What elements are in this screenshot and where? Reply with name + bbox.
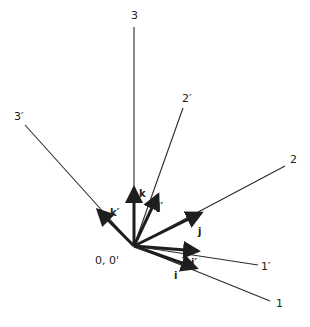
vec-ip-label: i′ xyxy=(191,257,197,268)
axes-layer xyxy=(25,27,285,301)
axis-3p-label: 3′ xyxy=(14,110,24,123)
diagram-canvas: 33′2′21′1kk′j′ji′i 0, 0' xyxy=(0,0,310,327)
axis-2p-label: 2′ xyxy=(182,92,192,105)
axis-1p-label: 1′ xyxy=(261,260,271,273)
axis-3-label: 3 xyxy=(131,9,138,22)
vec-i-label: i xyxy=(174,270,177,281)
origin-label: 0, 0' xyxy=(95,254,119,267)
vec-k-label: k xyxy=(139,188,146,199)
coordinate-frames-diagram: 33′2′21′1kk′j′ji′i 0, 0' xyxy=(0,0,310,327)
axis-2-label: 2 xyxy=(290,153,297,166)
vec-kp-label: k′ xyxy=(110,207,120,218)
vec-j-label: j xyxy=(197,226,201,237)
axis-1-label: 1 xyxy=(276,297,283,310)
vec-jp-label: j′ xyxy=(156,201,163,212)
vec-jp-arrow xyxy=(134,195,158,246)
